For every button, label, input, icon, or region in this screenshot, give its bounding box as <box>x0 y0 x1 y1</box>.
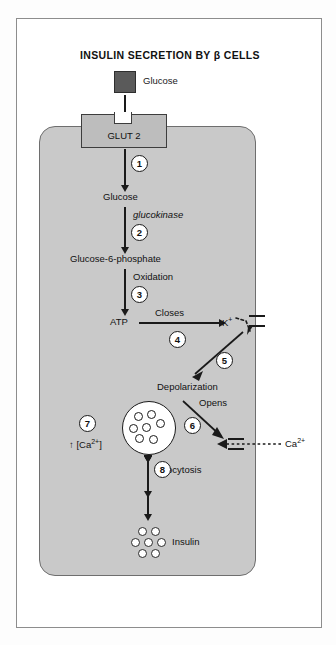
glucose-molecule-icon <box>114 71 136 93</box>
insulin-granule <box>151 527 160 536</box>
step-badge-4: 4 <box>169 331 186 348</box>
insulin-granule <box>157 538 166 547</box>
vesicle-granule <box>135 434 144 443</box>
potassium-channel-bar-bottom <box>249 325 265 327</box>
calcium-rise-label: [Ca2+] <box>76 439 101 450</box>
vesicle-granule <box>142 423 151 432</box>
edge-label-oxidation: Oxidation <box>133 271 173 282</box>
vesicle-granule <box>129 424 138 433</box>
arrow-step-3 <box>124 269 126 309</box>
node-glucose-6-phosphate: Glucose-6-phosphate <box>70 253 161 264</box>
arrow-step-2 <box>124 207 126 247</box>
node-calcium-extracellular: Ca2+ <box>285 437 305 449</box>
arrow-step-1 <box>124 149 126 185</box>
vesicle-granule <box>147 410 156 419</box>
node-glucose-intracellular: Glucose <box>103 191 138 202</box>
glut2-label: GLUT 2 <box>81 130 167 141</box>
step-badge-3: 3 <box>131 286 148 303</box>
node-atp: ATP <box>110 316 128 327</box>
node-potassium: K+ <box>222 316 232 328</box>
step-badge-1: 1 <box>131 155 148 172</box>
edge-label-glucokinase: glucokinase <box>133 209 183 220</box>
glut2-pore-notch <box>114 112 132 124</box>
vesicle-granule <box>134 412 143 421</box>
insulin-granule <box>138 527 147 536</box>
step-badge-6: 6 <box>184 417 201 434</box>
vesicle-granule <box>149 435 158 444</box>
vesicle-granule <box>156 419 165 428</box>
figure-canvas: INSULIN SECRETION BY β CELLS Glucose GLU… <box>0 0 336 645</box>
figure-frame: INSULIN SECRETION BY β CELLS Glucose GLU… <box>16 18 322 628</box>
step-badge-7: 7 <box>79 415 96 432</box>
calcium-channel-bar-top <box>228 438 244 440</box>
arrow-exocytosis-line <box>147 456 149 514</box>
calcium-increase-arrow-icon: ↑ <box>69 439 74 450</box>
potassium-channel-bar-top <box>249 315 265 317</box>
node-depolarization: Depolarization <box>157 381 218 392</box>
calcium-channel-bar-bottom <box>228 448 244 450</box>
figure-title: INSULIN SECRETION BY β CELLS <box>17 49 323 61</box>
insulin-granule <box>151 549 160 558</box>
arrow-step-4 <box>139 322 219 324</box>
insulin-granule <box>131 538 140 547</box>
insulin-label: Insulin <box>172 536 199 547</box>
step-badge-2: 2 <box>131 224 148 241</box>
edge-label-opens: Opens <box>199 397 227 408</box>
step-badge-8: 8 <box>154 461 171 478</box>
insulin-granule <box>144 538 153 547</box>
calcium-label: Ca2+ <box>285 438 305 449</box>
edge-label-closes: Closes <box>155 307 184 318</box>
potassium-label: K+ <box>222 317 232 328</box>
secretory-vesicle <box>122 401 176 455</box>
glucose-extracellular-label: Glucose <box>143 75 178 86</box>
step-badge-5: 5 <box>216 352 233 369</box>
insulin-granule <box>138 549 147 558</box>
node-calcium-rise: ↑ [Ca2+] <box>69 438 102 450</box>
